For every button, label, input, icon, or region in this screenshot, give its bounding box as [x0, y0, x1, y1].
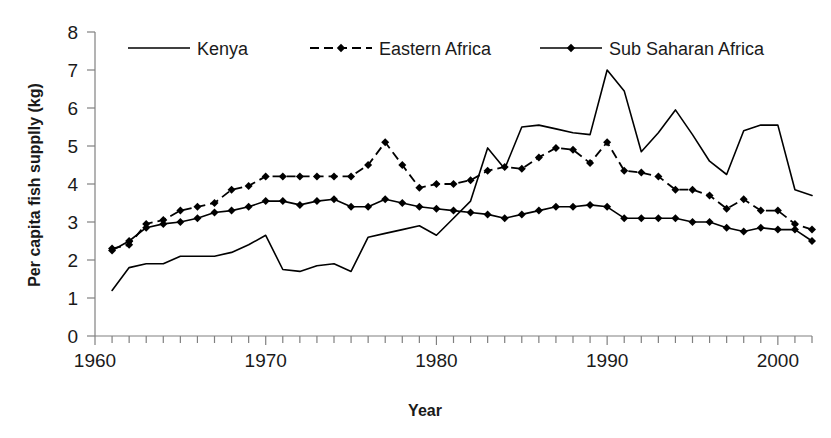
data-point-marker	[620, 167, 628, 175]
data-point-marker	[467, 209, 475, 217]
y-axis-title: Per capita fish supplly (kg)	[26, 83, 43, 287]
data-point-marker	[689, 186, 697, 194]
data-point-marker	[450, 180, 458, 188]
legend-label-kenya: Kenya	[197, 39, 249, 59]
chart-figure: Per capita fish supplly (kg) Year 012345…	[0, 0, 831, 438]
diamond-marker-icon	[567, 44, 575, 52]
y-tick-label-2: 2	[67, 250, 78, 271]
line-chart: Per capita fish supplly (kg) Year 012345…	[0, 0, 831, 438]
data-point-marker	[415, 203, 423, 211]
series-line-sub-saharan-africa	[112, 199, 812, 250]
legend-item-eastern-africa[interactable]: Eastern Africa	[310, 39, 492, 59]
series-line-kenya	[112, 70, 812, 290]
data-point-marker	[262, 172, 270, 180]
y-axis-ticks	[87, 32, 95, 336]
x-axis-title: Year	[408, 402, 442, 419]
chart-legend: KenyaEastern AfricaSub Saharan Africa	[128, 39, 765, 59]
data-point-marker	[467, 176, 475, 184]
x-axis-ticks	[95, 336, 812, 345]
data-point-marker	[535, 153, 543, 161]
y-tick-label-6: 6	[67, 98, 78, 119]
y-tick-label-5: 5	[67, 136, 78, 157]
data-point-marker	[569, 203, 577, 211]
diamond-marker-icon	[337, 44, 345, 52]
data-point-marker	[432, 180, 440, 188]
data-point-marker	[774, 226, 782, 234]
series-eastern-africa	[108, 138, 816, 252]
data-point-marker	[347, 203, 355, 211]
data-point-marker	[671, 214, 679, 222]
data-point-marker	[706, 218, 714, 226]
y-tick-label-1: 1	[67, 288, 78, 309]
data-point-marker	[501, 163, 509, 171]
legend-item-sub-saharan-africa[interactable]: Sub Saharan Africa	[540, 39, 765, 59]
data-point-marker	[501, 214, 509, 222]
data-point-marker	[228, 207, 236, 215]
y-tick-label-0: 0	[67, 326, 78, 347]
data-point-marker	[176, 207, 184, 215]
data-point-marker	[313, 197, 321, 205]
data-point-marker	[313, 172, 321, 180]
data-point-marker	[484, 167, 492, 175]
data-point-marker	[450, 207, 458, 215]
data-point-marker	[381, 195, 389, 203]
data-point-marker	[245, 203, 253, 211]
y-tick-label-3: 3	[67, 212, 78, 233]
series-kenya	[112, 70, 812, 290]
x-tick-label-1990: 1990	[586, 350, 628, 371]
data-point-marker	[637, 214, 645, 222]
data-point-marker	[211, 209, 219, 217]
data-point-marker	[808, 226, 816, 234]
legend-item-kenya[interactable]: Kenya	[128, 39, 249, 59]
x-tick-label-1960: 1960	[74, 350, 116, 371]
series-layer	[108, 70, 816, 290]
data-point-marker	[740, 228, 748, 236]
legend-label-eastern-africa: Eastern Africa	[379, 39, 492, 59]
data-point-marker	[330, 172, 338, 180]
data-point-marker	[757, 224, 765, 232]
x-axis-tick-labels: 19601970198019902000	[74, 350, 799, 371]
data-point-marker	[637, 169, 645, 177]
data-point-marker	[535, 207, 543, 215]
y-tick-label-7: 7	[67, 60, 78, 81]
data-point-marker	[586, 201, 594, 209]
data-point-marker	[193, 214, 201, 222]
data-point-marker	[723, 224, 731, 232]
x-tick-label-1970: 1970	[245, 350, 287, 371]
data-point-marker	[330, 195, 338, 203]
data-point-marker	[279, 197, 287, 205]
data-point-marker	[415, 184, 423, 192]
data-point-marker	[518, 210, 526, 218]
x-tick-label-2000: 2000	[757, 350, 799, 371]
data-point-marker	[364, 203, 372, 211]
data-point-marker	[398, 199, 406, 207]
data-point-marker	[654, 214, 662, 222]
data-point-marker	[432, 205, 440, 213]
data-point-marker	[552, 144, 560, 152]
data-point-marker	[296, 201, 304, 209]
y-axis-tick-labels: 012345678	[67, 22, 78, 347]
data-point-marker	[245, 182, 253, 190]
legend-label-sub-saharan-africa: Sub Saharan Africa	[609, 39, 765, 59]
data-point-marker	[193, 203, 201, 211]
data-point-marker	[552, 203, 560, 211]
data-point-marker	[279, 172, 287, 180]
x-tick-label-1980: 1980	[415, 350, 457, 371]
data-point-marker	[484, 210, 492, 218]
data-point-marker	[689, 218, 697, 226]
data-point-marker	[176, 218, 184, 226]
y-tick-label-4: 4	[67, 174, 78, 195]
data-point-marker	[262, 197, 270, 205]
y-tick-label-8: 8	[67, 22, 78, 43]
data-point-marker	[296, 172, 304, 180]
data-point-marker	[347, 172, 355, 180]
